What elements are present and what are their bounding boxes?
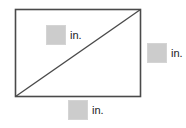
measure-height-unit: in.: [171, 48, 183, 59]
rectangle-diagonal-figure: in. in. in.: [0, 0, 186, 128]
measure-height[interactable]: in.: [147, 43, 183, 63]
measure-diagonal-input[interactable]: [68, 100, 88, 120]
measure-diagonal[interactable]: in.: [68, 100, 104, 120]
measure-height-input[interactable]: [147, 43, 167, 63]
measure-width-unit: in.: [70, 30, 82, 41]
measure-width-input[interactable]: [46, 25, 66, 45]
measure-width[interactable]: in.: [46, 25, 82, 45]
measure-diagonal-unit: in.: [92, 105, 104, 116]
